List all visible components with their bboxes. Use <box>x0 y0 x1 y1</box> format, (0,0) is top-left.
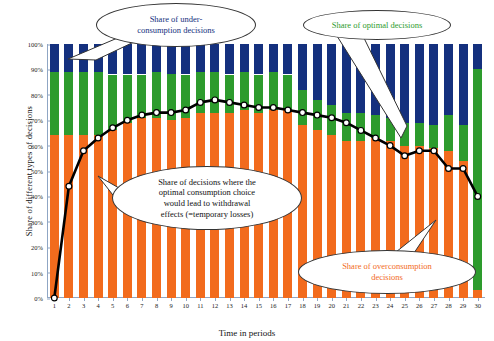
callout-under-line-2: consumption decisions <box>131 25 221 36</box>
callout-withdrawal-bubble: Share of decisions where the optimal con… <box>112 166 302 230</box>
x-tick-label: 9 <box>169 302 172 309</box>
line-data-point <box>431 148 437 154</box>
x-tick-mark <box>69 298 70 301</box>
callout-over-line-1: Share of overconsumption <box>336 261 438 272</box>
callout-overconsumption: Share of overconsumption decisions <box>298 250 476 294</box>
line-data-point <box>183 107 189 113</box>
line-data-point <box>227 100 233 106</box>
x-tick-label: 7 <box>140 302 143 309</box>
callout-tail-optimal <box>333 34 443 144</box>
x-tick-mark <box>98 298 99 301</box>
x-tick-label: 2 <box>67 302 70 309</box>
x-tick-mark <box>419 298 420 301</box>
x-tick-label: 15 <box>255 302 262 309</box>
x-tick-label: 5 <box>111 302 114 309</box>
callout-withdrawal-line-2: optimal consumption choice <box>152 187 262 198</box>
x-tick-mark <box>127 298 128 301</box>
callout-under-bubble: Share of under- consumption decisions <box>96 3 256 47</box>
line-data-point <box>81 148 87 154</box>
line-data-point <box>197 100 203 106</box>
line-data-point <box>314 112 320 118</box>
x-tick-label: 1 <box>53 302 56 309</box>
line-data-point <box>460 166 466 172</box>
x-tick-mark <box>303 298 304 301</box>
x-tick-label: 12 <box>212 302 219 309</box>
x-tick-mark <box>317 298 318 301</box>
x-tick-label: 28 <box>445 302 452 309</box>
x-axis-title: Time in periods <box>0 328 494 338</box>
line-data-point <box>212 97 218 103</box>
x-tick-mark <box>244 298 245 301</box>
x-tick-label: 27 <box>431 302 438 309</box>
callout-over-line-2: decisions <box>336 272 438 283</box>
line-data-point <box>124 117 130 123</box>
x-tick-label: 25 <box>401 302 408 309</box>
y-tick-label: 60% <box>31 142 47 149</box>
x-tick-label: 19 <box>314 302 321 309</box>
callout-withdrawal-line-4: effects (=temporary losses) <box>152 209 262 220</box>
callout-optimal-bubble: Share of optimal decisions <box>303 10 451 40</box>
x-tick-mark <box>84 298 85 301</box>
x-tick-label: 18 <box>299 302 306 309</box>
x-tick-mark <box>376 298 377 301</box>
y-tick-label: 30% <box>31 218 47 225</box>
x-tick-label: 14 <box>241 302 248 309</box>
x-tick-mark <box>200 298 201 301</box>
x-tick-mark <box>186 298 187 301</box>
x-tick-label: 8 <box>155 302 158 309</box>
x-tick-mark <box>361 298 362 301</box>
line-data-point <box>256 105 262 111</box>
x-tick-label: 17 <box>285 302 292 309</box>
x-tick-label: 11 <box>197 302 203 309</box>
x-tick-mark <box>113 298 114 301</box>
x-tick-mark <box>157 298 158 301</box>
y-tick-label: 90% <box>31 66 47 73</box>
x-tick-mark <box>215 298 216 301</box>
y-tick-label: 10% <box>31 269 47 276</box>
x-tick-mark <box>142 298 143 301</box>
y-tick-label: 70% <box>31 117 47 124</box>
x-tick-label: 26 <box>416 302 423 309</box>
chart-figure: Share of different types of decisions Ti… <box>0 0 494 341</box>
x-tick-mark <box>463 298 464 301</box>
callout-optimal-line-1: Share of optimal decisions <box>326 20 428 31</box>
line-data-point <box>139 112 145 118</box>
line-data-point <box>110 125 116 131</box>
y-tick-label: 20% <box>31 244 47 251</box>
x-tick-label: 24 <box>387 302 394 309</box>
x-tick-mark <box>405 298 406 301</box>
x-tick-mark <box>171 298 172 301</box>
line-data-point <box>154 110 160 116</box>
x-tick-label: 30 <box>474 302 481 309</box>
x-tick-label: 6 <box>126 302 129 309</box>
x-tick-mark <box>332 298 333 301</box>
y-tick-label: 40% <box>31 193 47 200</box>
callout-withdrawal-line-1: Share of decisions where the <box>152 177 262 188</box>
x-tick-label: 29 <box>460 302 467 309</box>
line-data-point <box>402 153 408 159</box>
x-tick-mark <box>478 298 479 301</box>
y-tick-label: 50% <box>31 168 47 175</box>
x-tick-label: 13 <box>226 302 233 309</box>
x-tick-mark <box>273 298 274 301</box>
x-tick-label: 16 <box>270 302 277 309</box>
x-tick-mark <box>449 298 450 301</box>
x-tick-label: 22 <box>358 302 365 309</box>
line-data-point <box>66 183 72 189</box>
callout-withdrawal: Share of decisions where the optimal con… <box>112 166 302 230</box>
x-tick-label: 4 <box>96 302 99 309</box>
x-tick-label: 21 <box>343 302 350 309</box>
y-tick-label: 80% <box>31 91 47 98</box>
x-tick-label: 3 <box>82 302 85 309</box>
x-tick-mark <box>434 298 435 301</box>
x-tick-mark <box>346 298 347 301</box>
line-data-point <box>285 107 291 113</box>
line-data-point <box>168 110 174 116</box>
x-tick-mark <box>390 298 391 301</box>
callout-overconsumption-bubble: Share of overconsumption decisions <box>298 250 476 294</box>
x-tick-mark <box>259 298 260 301</box>
callout-under-consumption: Share of under- consumption decisions <box>96 3 256 47</box>
line-data-point <box>270 105 276 111</box>
callout-withdrawal-line-3: would lead to withdrawal <box>152 198 262 209</box>
line-data-point <box>446 166 452 172</box>
